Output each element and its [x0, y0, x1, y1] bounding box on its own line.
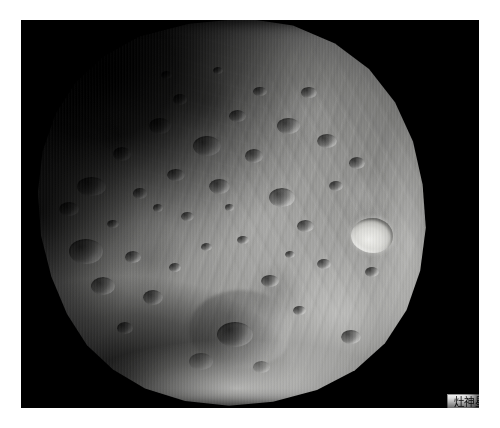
image-caption-text: 灶神星 [453, 397, 479, 408]
image-caption-label: 灶神星 [447, 394, 479, 408]
image-page: 灶神星 [0, 0, 500, 428]
photo-plate: 灶神星 [21, 20, 479, 408]
scanline-texture [29, 20, 429, 408]
moon-body [29, 20, 429, 408]
